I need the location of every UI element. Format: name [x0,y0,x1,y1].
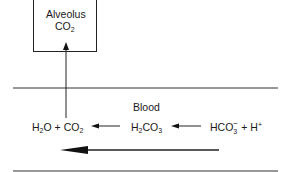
bicarbonate-charge: −3 [233,123,238,133]
arrow-left-icon [171,124,179,129]
big-arrow-left-icon [60,146,88,154]
arrow-left-icon [91,124,99,129]
blood-label: Blood [133,101,160,113]
arrow-up-icon [63,42,69,50]
diagram-lines [0,0,284,172]
products-label: H2O + CO2 [32,121,83,133]
reactants-label: HCO−3 + H+ [210,121,262,133]
carbonic-acid-label: H2CO3 [131,121,162,133]
